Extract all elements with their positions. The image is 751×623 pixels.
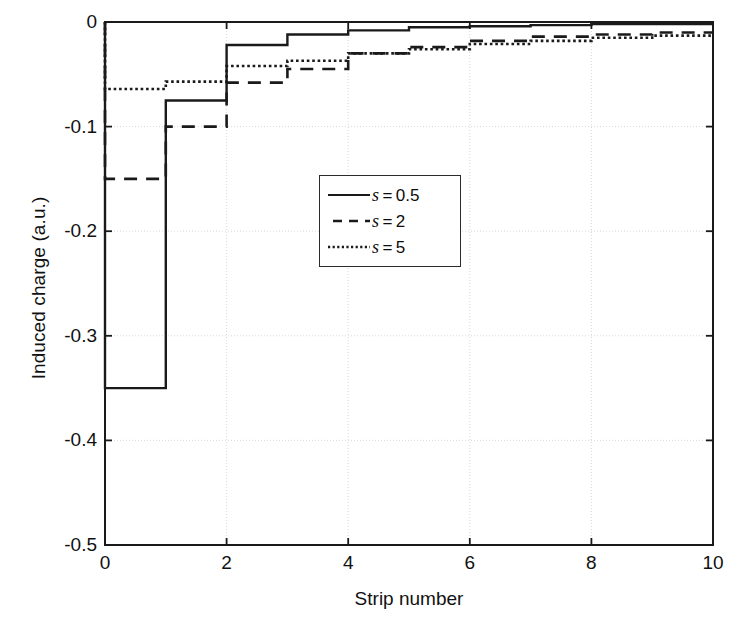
x-tick-label: 4 [318, 552, 378, 574]
series-line-2 [105, 22, 713, 89]
legend: s = 0.5 s = 2 s = 5 [319, 175, 461, 267]
legend-item-1: s = 2 [320, 208, 460, 234]
legend-label-2: s = 5 [372, 237, 405, 258]
y-tick-label: -0.3 [7, 325, 97, 347]
legend-label-1: s = 2 [372, 211, 405, 232]
x-tick-labels: 0246810 [0, 552, 751, 582]
x-axis-title: Strip number [105, 588, 713, 610]
y-tick-label: 0 [7, 11, 97, 33]
x-tick-label: 6 [440, 552, 500, 574]
y-tick-label: -0.4 [7, 429, 97, 451]
y-tick-label: -0.1 [7, 116, 97, 138]
legend-item-0: s = 0.5 [320, 182, 460, 208]
legend-line-solid-icon [327, 188, 371, 202]
legend-line-dotted-icon [327, 240, 371, 254]
x-tick-label: 0 [75, 552, 135, 574]
legend-line-dashed-icon [327, 214, 371, 228]
y-tick-label: -0.2 [7, 220, 97, 242]
x-tick-label: 8 [561, 552, 621, 574]
plot-area [0, 0, 751, 623]
figure: Induced charge (a.u.) Strip number 0-0.1… [0, 0, 751, 623]
x-tick-label: 2 [197, 552, 257, 574]
legend-label-0: s = 0.5 [372, 185, 419, 206]
legend-item-2: s = 5 [320, 234, 460, 260]
x-tick-label: 10 [683, 552, 743, 574]
y-tick-labels: 0-0.1-0.2-0.3-0.4-0.5 [0, 0, 97, 623]
